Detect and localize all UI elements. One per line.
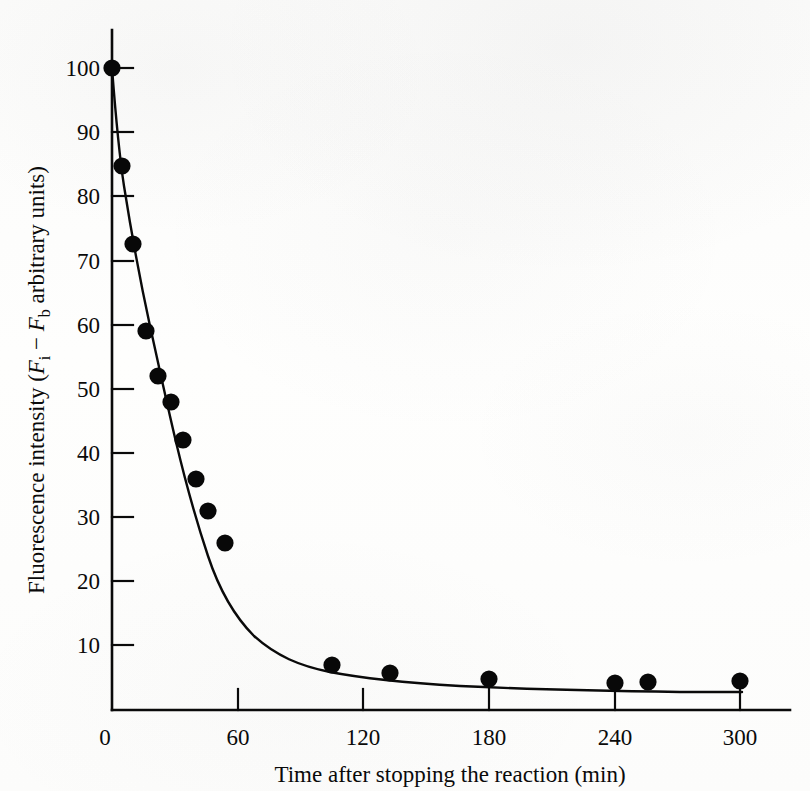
data-point [187, 470, 204, 487]
data-point [174, 431, 191, 448]
x-tick-label-240: 240 [598, 725, 633, 750]
data-point-markers [103, 59, 748, 691]
y-axis-ticks [112, 68, 133, 645]
y-tick-label-70: 70 [77, 249, 100, 274]
y-tick-label-10: 10 [77, 633, 100, 658]
svg-text:Fluorescence intensity (Fi − F: Fluorescence intensity (Fi − Fb arbitrar… [24, 166, 53, 594]
figure-page: 100 90 80 70 60 50 40 30 20 10 0 60 120 … [0, 0, 810, 791]
data-point [124, 235, 141, 252]
data-point [606, 674, 623, 691]
y-tick-label-20: 20 [77, 569, 100, 594]
data-point [103, 59, 120, 76]
y-axis-tick-labels: 100 90 80 70 60 50 40 30 20 10 [66, 56, 101, 658]
y-tick-label-50: 50 [77, 377, 100, 402]
data-point [162, 393, 179, 410]
data-point [113, 157, 130, 174]
y-title-lead: Fluorescence intensity ( [24, 374, 49, 594]
y-tick-label-60: 60 [77, 313, 100, 338]
y-title-f-b: F [24, 316, 49, 332]
data-point [216, 534, 233, 551]
y-axis-title: Fluorescence intensity (Fi − Fb arbitrar… [24, 166, 53, 594]
y-tick-label-90: 90 [77, 120, 100, 145]
x-tick-label-60: 60 [227, 725, 250, 750]
y-title-f-i: F [24, 359, 49, 375]
y-tick-label-80: 80 [77, 184, 100, 209]
x-axis-title: Time after stopping the reaction (min) [274, 762, 625, 787]
y-title-minus: − [24, 331, 49, 355]
x-axis-tick-labels: 0 60 120 180 240 300 [99, 725, 757, 750]
x-tick-label-300: 300 [723, 725, 758, 750]
data-point [323, 656, 340, 673]
decay-curve [112, 68, 742, 692]
y-tick-label-40: 40 [77, 441, 100, 466]
y-title-f-b-sub: b [36, 309, 53, 317]
data-point [199, 502, 216, 519]
data-point [480, 670, 497, 687]
data-point [137, 322, 154, 339]
x-tick-label-0: 0 [99, 725, 111, 750]
data-point [381, 664, 398, 681]
y-tick-label-30: 30 [77, 505, 100, 530]
x-tick-label-180: 180 [472, 725, 507, 750]
data-point [639, 673, 656, 690]
fluorescence-decay-chart: 100 90 80 70 60 50 40 30 20 10 0 60 120 … [0, 0, 810, 791]
x-tick-label-120: 120 [346, 725, 381, 750]
data-point [731, 672, 748, 689]
axis-lines [112, 30, 790, 710]
y-tick-label-100: 100 [66, 56, 101, 81]
y-title-tail: arbitrary units) [24, 166, 49, 309]
data-point [149, 367, 166, 384]
